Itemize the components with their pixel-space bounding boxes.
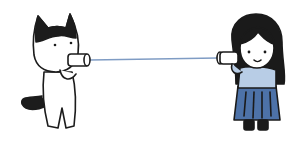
- girl-character: [217, 14, 285, 130]
- cat-character: [22, 14, 90, 128]
- string-line: [90, 58, 218, 60]
- tin-can-phone-illustration: [0, 0, 307, 144]
